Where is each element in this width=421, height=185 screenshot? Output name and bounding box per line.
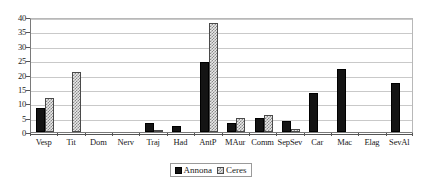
x-tick-end bbox=[412, 133, 413, 136]
bar-sepsev-ceres bbox=[291, 129, 300, 132]
y-tick-label-10: 10 bbox=[2, 100, 26, 109]
bar-had-annona bbox=[172, 126, 181, 132]
y-tick-label-15: 15 bbox=[2, 86, 26, 95]
x-label-nerv: Nerv bbox=[118, 137, 134, 148]
legend-entry-annona: Annona bbox=[175, 165, 213, 175]
x-label-dom: Dom bbox=[90, 137, 107, 148]
gridline-30 bbox=[31, 48, 412, 49]
gridline-35 bbox=[31, 33, 412, 34]
bar-vesp-annona bbox=[36, 108, 45, 132]
x-label-sepsev: SepSev bbox=[278, 137, 303, 148]
legend-label-ceres: Ceres bbox=[226, 165, 247, 175]
y-axis: 0510152025303540 bbox=[0, 0, 26, 185]
x-tick-elag bbox=[358, 133, 359, 136]
x-label-vesp: Vesp bbox=[36, 137, 52, 148]
x-tick-mac bbox=[331, 133, 332, 136]
bar-car-annona bbox=[309, 93, 318, 132]
bar-antp-ceres bbox=[209, 23, 218, 132]
y-tick-label-5: 5 bbox=[2, 115, 26, 124]
x-axis-labels: VespTitDomNervTrajHadAntPMAurCommSepSevC… bbox=[30, 137, 413, 153]
bar-maur-ceres bbox=[236, 118, 245, 132]
x-tick-maur bbox=[222, 133, 223, 136]
plot-area bbox=[30, 18, 413, 133]
gridline-5 bbox=[31, 120, 412, 121]
bar-seval-annona bbox=[391, 83, 400, 132]
bar-comm-annona bbox=[255, 118, 264, 132]
chart-legend: AnnonaCeres bbox=[0, 163, 421, 177]
x-tick-comm bbox=[249, 133, 250, 136]
x-tick-nerv bbox=[112, 133, 113, 136]
y-tick-label-35: 35 bbox=[2, 28, 26, 37]
x-tick-traj bbox=[139, 133, 140, 136]
bar-sepsev-annona bbox=[282, 121, 291, 133]
gridline-10 bbox=[31, 105, 412, 106]
x-tick-tit bbox=[57, 133, 58, 136]
x-tick-antp bbox=[194, 133, 195, 136]
bar-vesp-ceres bbox=[45, 98, 54, 133]
bar-mac-annona bbox=[337, 69, 346, 132]
bar-chart: 0510152025303540 VespTitDomNervTrajHadAn… bbox=[0, 0, 421, 185]
legend-entry-ceres: Ceres bbox=[217, 165, 247, 175]
bar-comm-ceres bbox=[264, 115, 273, 132]
bar-traj-ceres bbox=[154, 130, 163, 132]
x-label-tit: Tit bbox=[66, 137, 75, 148]
x-tick-had bbox=[167, 133, 168, 136]
x-tick-dom bbox=[85, 133, 86, 136]
bar-maur-annona bbox=[227, 123, 236, 132]
x-label-car: Car bbox=[311, 137, 323, 148]
x-label-had: Had bbox=[174, 137, 188, 148]
bar-tit-ceres bbox=[72, 72, 81, 132]
x-label-elag: Elag bbox=[364, 137, 379, 148]
gridline-40 bbox=[31, 19, 412, 20]
legend-box: AnnonaCeres bbox=[170, 163, 252, 177]
x-label-seval: SevAl bbox=[389, 137, 410, 148]
legend-swatch-ceres-icon bbox=[217, 167, 224, 174]
legend-swatch-annona-icon bbox=[175, 167, 182, 174]
plot-inner bbox=[31, 19, 412, 132]
x-label-maur: MAur bbox=[225, 137, 245, 148]
x-tick-car bbox=[304, 133, 305, 136]
y-tick-label-20: 20 bbox=[2, 72, 26, 81]
x-label-comm: Comm bbox=[251, 137, 274, 148]
legend-label-annona: Annona bbox=[184, 165, 213, 175]
gridline-20 bbox=[31, 77, 412, 78]
bar-traj-annona bbox=[145, 123, 154, 132]
y-tick-label-25: 25 bbox=[2, 57, 26, 66]
x-tick-vesp bbox=[30, 133, 31, 136]
x-tick-sepsev bbox=[276, 133, 277, 136]
x-label-mac: Mac bbox=[337, 137, 352, 148]
y-tick-label-30: 30 bbox=[2, 43, 26, 52]
gridline-15 bbox=[31, 91, 412, 92]
gridline-25 bbox=[31, 62, 412, 63]
x-tick-seval bbox=[386, 133, 387, 136]
bar-antp-annona bbox=[200, 62, 209, 132]
y-tick-label-0: 0 bbox=[2, 129, 26, 138]
x-label-traj: Traj bbox=[146, 137, 159, 148]
x-label-antp: AntP bbox=[199, 137, 216, 148]
y-tick-label-40: 40 bbox=[2, 14, 26, 23]
